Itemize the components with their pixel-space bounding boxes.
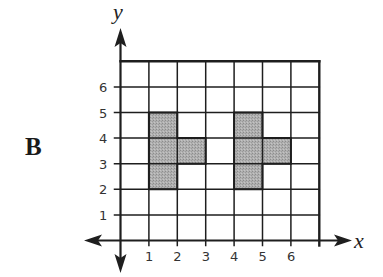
- x-tick-label: 3: [202, 249, 210, 264]
- shaded-shapes: [149, 113, 291, 190]
- y-tick-label: 5: [99, 106, 107, 121]
- tick-labels: 123456123456: [99, 80, 295, 264]
- x-tick-label: 4: [230, 249, 238, 264]
- x-tick-label: 2: [173, 249, 181, 264]
- y-tick-label: 1: [99, 208, 107, 223]
- x-axis-label: x: [353, 228, 364, 253]
- y-tick-label: 3: [99, 157, 107, 172]
- y-tick-label: 2: [99, 182, 107, 197]
- y-tick-label: 6: [99, 80, 107, 95]
- coordinate-grid: 123456123456 x y: [0, 0, 383, 277]
- axes: [84, 28, 352, 273]
- x-tick-label: 6: [287, 249, 295, 264]
- y-tick-label: 4: [99, 131, 107, 146]
- x-tick-label: 5: [259, 249, 267, 264]
- x-tick-label: 1: [145, 249, 153, 264]
- y-axis-label: y: [111, 0, 123, 24]
